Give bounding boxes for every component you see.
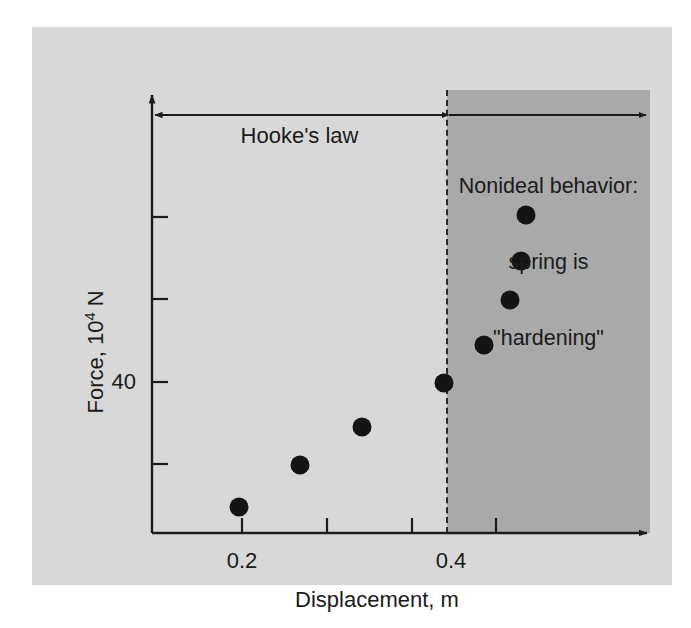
plot-panel: Hooke's law Nonideal behavior: spring is… (32, 27, 672, 585)
data-point (353, 418, 372, 437)
x-tick-label: 0.2 (207, 548, 277, 574)
figure-root: Hooke's law Nonideal behavior: spring is… (0, 0, 691, 628)
nonideal-label-line-1: Nonideal behavior: (447, 174, 650, 199)
data-point (291, 456, 310, 475)
y-axis-title-prefix: Force, 10 (83, 321, 108, 414)
nonideal-region-label: Nonideal behavior: spring is "hardening" (447, 123, 650, 402)
hookes-law-region-label: Hooke's law (152, 123, 447, 149)
x-axis-title: Displacement, m (227, 587, 527, 613)
x-tick-label: 0.4 (416, 548, 486, 574)
y-axis-title-exponent: 4 (82, 312, 98, 320)
y-axis-title: Force, 104 N (83, 257, 109, 447)
data-point (230, 498, 249, 517)
y-axis-title-suffix: N (83, 290, 108, 312)
y-tick-label: 40 (84, 369, 136, 395)
nonideal-label-line-3: "hardening" (447, 326, 650, 351)
nonideal-label-line-2: spring is (447, 250, 650, 275)
